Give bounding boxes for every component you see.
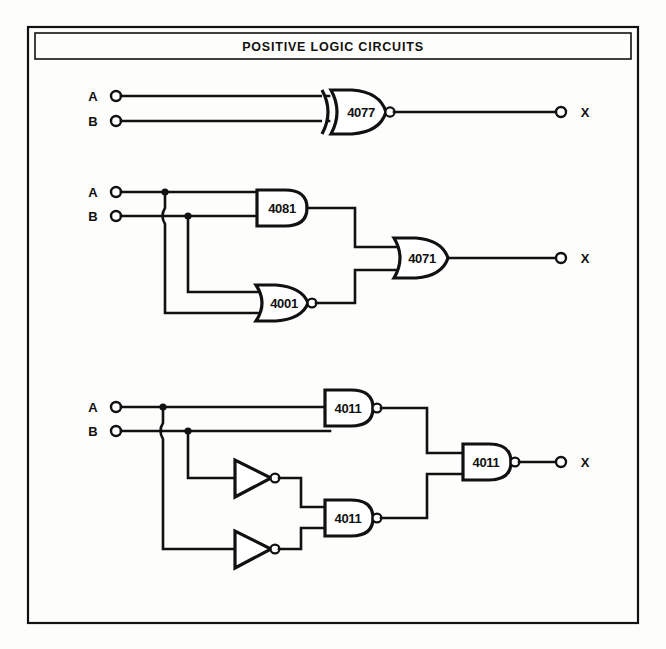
input-terminal-b[interactable]: [111, 211, 121, 221]
output-label-x: X: [581, 251, 590, 266]
wire-and-to-or: [307, 208, 402, 247]
input-label-b: B: [88, 114, 97, 129]
gate-label-4071: 4071: [408, 251, 436, 266]
junction-dot-a: [159, 403, 166, 410]
input-terminal-a[interactable]: [111, 91, 121, 101]
wire-nand1-to-nand3: [381, 408, 469, 453]
junction-dot-b: [184, 212, 191, 219]
wire-nand2-to-nand3: [381, 474, 469, 518]
wire-b-branch-to-inverter1: [188, 431, 236, 478]
junction-dot-a: [161, 188, 168, 195]
input-label-a: A: [88, 400, 98, 415]
input-terminal-b[interactable]: [111, 426, 121, 436]
gate-label-4011-middle: 4011: [334, 511, 361, 526]
circuit-1: A B 4077 X: [88, 89, 589, 135]
output-label-x: X: [581, 455, 590, 470]
circuit-3: A B 4011: [88, 390, 589, 568]
gate-inverter-upper-body[interactable]: [235, 460, 271, 497]
wire-a-branch-to-nor: [163, 192, 265, 313]
wire-inverter2-to-nand2: [279, 528, 330, 549]
input-terminal-a[interactable]: [111, 402, 121, 412]
input-label-a: A: [88, 185, 98, 200]
junction-dot-b: [184, 427, 191, 434]
gate-label-4011-top: 4011: [334, 401, 361, 416]
wire-b-branch-to-nor: [188, 216, 264, 292]
gate-label-4081: 4081: [268, 201, 296, 216]
input-label-b: B: [88, 424, 97, 439]
input-label-b: B: [88, 209, 97, 224]
gate-inverter-lower-body[interactable]: [235, 531, 271, 568]
diagram-sheet: POSITIVE LOGIC CIRCUITS A B 4077 X: [0, 0, 666, 649]
wire-inverter1-to-nand2: [279, 478, 330, 507]
wire-nor-to-or: [316, 270, 402, 303]
gate-label-4077: 4077: [347, 105, 375, 120]
gate-label-4001: 4001: [270, 296, 298, 311]
diagram-title: POSITIVE LOGIC CIRCUITS: [242, 40, 424, 54]
input-terminal-a[interactable]: [111, 187, 121, 197]
output-terminal-x[interactable]: [556, 107, 566, 117]
circuit-2: A B 4081 4001 4071: [88, 185, 589, 322]
gate-label-4011-output: 4011: [472, 455, 499, 470]
input-label-a: A: [88, 89, 98, 104]
input-terminal-b[interactable]: [111, 116, 121, 126]
output-label-x: X: [581, 105, 590, 120]
output-terminal-x[interactable]: [556, 457, 566, 467]
logic-circuit-diagram: POSITIVE LOGIC CIRCUITS A B 4077 X: [0, 0, 666, 649]
output-terminal-x[interactable]: [556, 253, 566, 263]
